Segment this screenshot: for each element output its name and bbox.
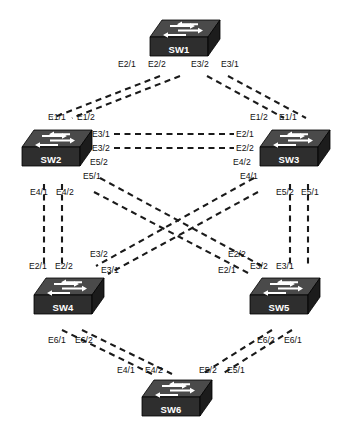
port-label-sw5-e32: E3/2 (250, 262, 268, 271)
switch-icon (248, 276, 322, 320)
switch-icon (20, 128, 94, 172)
port-label-sw4-e21: E2/1 (29, 262, 47, 271)
port-label-sw5-e31: E3/1 (276, 262, 294, 271)
port-label-sw4-e22: E2/2 (55, 262, 73, 271)
device-sw3[interactable]: SW3 (258, 128, 332, 172)
port-label-sw2-e31: E3/1 (92, 130, 110, 139)
link-sw3-sw4 (108, 192, 258, 274)
device-sw2[interactable]: SW2 (20, 128, 94, 172)
port-label-sw4-e62: E6/2 (75, 336, 93, 345)
port-label-sw1-e31: E3/1 (221, 60, 239, 69)
port-label-sw6-e41: E4/1 (117, 366, 135, 375)
port-label-sw4-e61: E6/1 (48, 336, 66, 345)
port-label-sw6-e52: E5/2 (199, 366, 217, 375)
port-label-sw1-e32: E3/2 (191, 60, 209, 69)
switch-icon (258, 128, 332, 172)
port-label-sw3-e11: E1/1 (279, 113, 297, 122)
link-sw2-sw5 (94, 192, 250, 274)
port-label-sw2-e51: E5/1 (83, 172, 101, 181)
port-label-sw2-e12: E1/2 (77, 113, 95, 122)
device-sw4[interactable]: SW4 (32, 276, 106, 320)
port-label-sw4-e32: E3/2 (90, 250, 108, 259)
port-label-sw5-e21: E2/1 (218, 266, 236, 275)
device-sw1[interactable]: SW1 (148, 18, 222, 62)
port-label-sw2-e11: E1/1 (48, 113, 66, 122)
port-label-sw2-e41: E4/1 (30, 188, 48, 197)
port-label-sw3-e22: E2/2 (236, 144, 254, 153)
switch-icon (140, 378, 214, 422)
port-label-sw6-e51: E5/1 (227, 366, 245, 375)
device-sw5[interactable]: SW5 (248, 276, 322, 320)
switch-icon (148, 18, 222, 62)
port-label-sw3-e52: E5/2 (276, 188, 294, 197)
port-label-sw5-e62: E6/2 (257, 336, 275, 345)
network-topology-diagram: SW1 SW2 SW3 SW4 (0, 0, 355, 430)
port-label-sw1-e22: E2/2 (148, 60, 166, 69)
port-label-sw2-e32: E3/2 (92, 144, 110, 153)
port-label-sw2-e52: E5/2 (90, 158, 108, 167)
port-label-sw3-e41: E4/1 (240, 172, 258, 181)
port-label-sw1-e21: E2/1 (118, 60, 136, 69)
port-label-sw4-e31: E3/1 (101, 266, 119, 275)
link-layer (0, 0, 355, 430)
switch-icon (32, 276, 106, 320)
port-label-sw2-e42: E4/2 (56, 188, 74, 197)
link-sw1-sw2 (52, 76, 160, 118)
port-label-sw5-e22: E2/2 (228, 250, 246, 259)
port-label-sw3-e12: E1/2 (250, 113, 268, 122)
port-label-sw6-e42: E4/2 (145, 366, 163, 375)
port-label-sw3-e42: E4/2 (233, 158, 251, 167)
port-label-sw3-e51: E5/1 (301, 188, 319, 197)
link-sw1-sw3 (207, 76, 284, 118)
port-label-sw5-e61: E6/1 (284, 336, 302, 345)
device-sw6[interactable]: SW6 (140, 378, 214, 422)
port-label-sw3-e21: E2/1 (236, 130, 254, 139)
